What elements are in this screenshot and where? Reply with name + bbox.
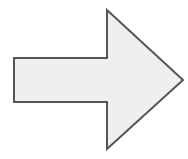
right-arrow-icon bbox=[14, 10, 183, 149]
arrow-diagram bbox=[0, 0, 188, 159]
